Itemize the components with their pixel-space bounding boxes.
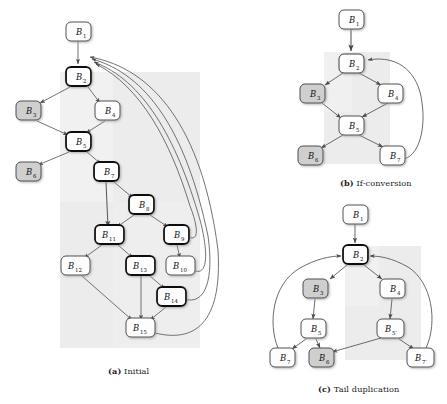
node-a-B5[interactable]: B 5 — [66, 132, 91, 151]
node-a-B3[interactable]: B 3 — [16, 101, 41, 120]
caption-b-text: If-conversion — [356, 178, 411, 188]
node-b-B6[interactable]: B 6 — [298, 146, 323, 165]
node-a-B11[interactable]: B 11 — [95, 225, 124, 244]
svg-text:B: B — [67, 261, 74, 271]
node-b-B4[interactable]: B 4 — [378, 84, 403, 103]
svg-text:6: 6 — [315, 157, 319, 163]
svg-text:B: B — [352, 210, 359, 220]
node-a-B1[interactable]: B 1 — [66, 22, 91, 41]
node-c-B1[interactable]: B 1 — [343, 205, 368, 224]
svg-text:4: 4 — [112, 112, 116, 118]
node-c-B5[interactable]: B 5 — [301, 319, 326, 338]
svg-text:2: 2 — [356, 65, 359, 71]
node-b-B1[interactable]: B 1 — [339, 10, 364, 29]
node-a-B12[interactable]: B 12 — [61, 256, 90, 275]
panel-c: B 1 B 2 B 3 B 4 — [270, 205, 434, 367]
node-c-B3[interactable]: B 3 — [303, 279, 328, 298]
node-a-B13[interactable]: B 13 — [126, 256, 155, 275]
svg-text:B: B — [138, 200, 145, 210]
svg-text:B: B — [389, 151, 396, 161]
node-a-B7[interactable]: B 7 — [94, 162, 119, 181]
svg-text:B: B — [173, 230, 180, 240]
svg-text:B: B — [104, 106, 111, 116]
svg-text:B: B — [352, 250, 359, 260]
svg-text:B: B — [103, 167, 110, 177]
node-a-B14[interactable]: B 14 — [157, 287, 186, 306]
node-c-B7[interactable]: B 7 — [270, 348, 295, 367]
node-a-B6[interactable]: B 6 — [16, 162, 41, 181]
node-a-B10[interactable]: B 10 — [166, 256, 195, 275]
svg-text:B: B — [309, 89, 316, 99]
node-b-B5[interactable]: B 5 — [339, 116, 364, 135]
caption-panel-b: (b) If-conversion — [340, 178, 412, 188]
svg-text:14: 14 — [171, 298, 178, 304]
svg-text:5′: 5′ — [392, 330, 397, 336]
node-c-B6[interactable]: B 6 — [309, 348, 334, 367]
node-b-B3[interactable]: B 3 — [300, 84, 325, 103]
svg-text:B: B — [348, 59, 355, 69]
svg-text:2: 2 — [360, 256, 363, 262]
svg-text:B: B — [387, 89, 394, 99]
figure-canvas: B 1 B 2 B 3 B 4 — [0, 0, 447, 404]
svg-text:15: 15 — [140, 329, 147, 335]
svg-text:B: B — [75, 137, 82, 147]
caption-panel-c: (c) Tail duplication — [318, 384, 399, 394]
svg-text:7′: 7′ — [422, 359, 427, 365]
svg-text:6: 6 — [326, 359, 330, 365]
caption-b-label: (b) — [340, 178, 354, 188]
svg-text:7: 7 — [397, 157, 401, 163]
svg-text:B: B — [172, 261, 179, 271]
caption-a-text: Initial — [124, 366, 149, 376]
svg-text:5: 5 — [356, 127, 360, 133]
svg-text:3: 3 — [320, 290, 324, 296]
node-c-B5prime[interactable]: B 5′ — [377, 319, 404, 338]
svg-text:13: 13 — [140, 267, 147, 273]
svg-text:4: 4 — [397, 290, 401, 296]
svg-text:1: 1 — [360, 216, 363, 222]
panel-a: B 1 B 2 B 3 B 4 — [16, 22, 218, 348]
svg-text:10: 10 — [180, 267, 187, 273]
caption-c-text: Tail duplication — [334, 384, 400, 394]
caption-a-label: (a) — [108, 366, 121, 376]
svg-text:B: B — [307, 151, 314, 161]
svg-text:B: B — [414, 353, 421, 363]
svg-text:B: B — [389, 284, 396, 294]
svg-text:7: 7 — [287, 359, 291, 365]
caption-panel-a: (a) Initial — [108, 366, 149, 376]
svg-text:B: B — [279, 353, 286, 363]
svg-text:B: B — [75, 27, 82, 37]
node-c-B2[interactable]: B 2 — [343, 245, 368, 264]
node-a-B15[interactable]: B 15 — [126, 318, 155, 337]
svg-text:B: B — [163, 292, 170, 302]
node-a-B8[interactable]: B 8 — [129, 195, 154, 214]
node-b-B7[interactable]: B 7 — [380, 146, 405, 165]
svg-text:B: B — [312, 284, 319, 294]
panel-b: B 1 B 2 B 3 B 4 — [298, 10, 423, 165]
svg-text:B: B — [348, 15, 355, 25]
svg-text:7: 7 — [111, 173, 115, 179]
node-a-B9[interactable]: B 9 — [164, 225, 189, 244]
svg-text:B: B — [384, 324, 391, 334]
svg-text:B: B — [318, 353, 325, 363]
svg-text:B: B — [310, 324, 317, 334]
svg-text:1: 1 — [356, 21, 359, 27]
node-c-B4[interactable]: B 4 — [380, 279, 405, 298]
svg-text:5: 5 — [83, 143, 87, 149]
node-a-B2[interactable]: B 2 — [66, 67, 91, 86]
svg-text:B: B — [25, 106, 32, 116]
svg-text:1: 1 — [83, 33, 86, 39]
svg-text:B: B — [75, 72, 82, 82]
svg-text:3: 3 — [33, 112, 37, 118]
node-a-B4[interactable]: B 4 — [95, 101, 120, 120]
svg-text:4: 4 — [395, 95, 399, 101]
svg-text:9: 9 — [181, 236, 185, 242]
svg-text:8: 8 — [146, 206, 150, 212]
node-c-B7prime[interactable]: B 7′ — [407, 348, 434, 367]
node-b-B2[interactable]: B 2 — [339, 54, 364, 73]
svg-text:12: 12 — [75, 267, 82, 273]
svg-text:3: 3 — [317, 95, 321, 101]
svg-text:B: B — [101, 230, 108, 240]
caption-c-label: (c) — [318, 384, 331, 394]
svg-text:11: 11 — [109, 236, 116, 242]
svg-text:B: B — [132, 323, 139, 333]
